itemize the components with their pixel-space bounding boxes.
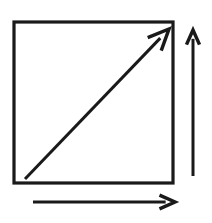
diagram-canvas <box>0 0 212 223</box>
canvas-background <box>0 0 212 223</box>
diagram-svg <box>0 0 212 223</box>
